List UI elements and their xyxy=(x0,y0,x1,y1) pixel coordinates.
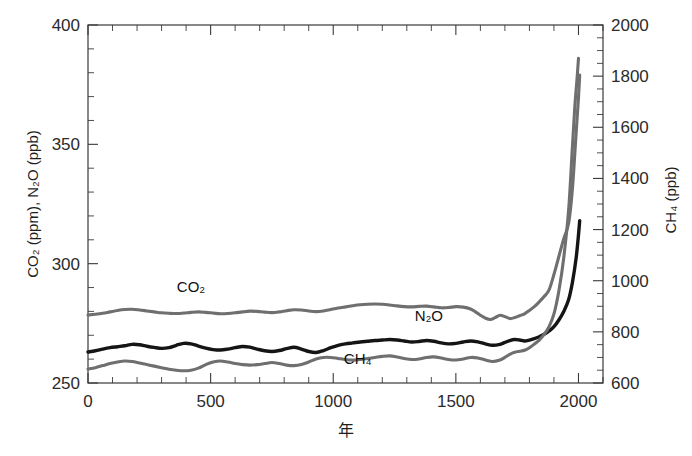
left-tick-label: 300 xyxy=(52,255,80,274)
bottom-axis-ticks xyxy=(88,373,603,383)
series-label-no: N₂O xyxy=(415,307,443,324)
right-tick-label: 1000 xyxy=(611,272,649,291)
right-tick-label: 2000 xyxy=(611,16,649,35)
right-axis-title: CH₄ (ppb) xyxy=(662,167,679,234)
series-annotation-layer: CO₂N₂OCH₄ xyxy=(177,278,443,367)
bottom-tick-label: 1500 xyxy=(437,392,475,411)
bottom-tick-label: 500 xyxy=(196,392,224,411)
series-curve-ch xyxy=(88,58,578,370)
right-tick-label: 600 xyxy=(611,374,639,393)
data-series-layer xyxy=(88,58,580,370)
left-axis-tick-labels: 250300350400 xyxy=(52,16,80,393)
right-tick-label: 800 xyxy=(611,323,639,342)
greenhouse-gas-concentration-chart: 250300350400 600800100012001400160018002… xyxy=(0,0,692,456)
left-axis-title: CO₂ (ppm), N₂O (ppb) xyxy=(24,130,41,278)
left-tick-label: 350 xyxy=(52,135,80,154)
plot-frame xyxy=(88,25,603,383)
right-tick-label: 1600 xyxy=(611,118,649,137)
bottom-tick-label: 1000 xyxy=(314,392,352,411)
figure-container: 250300350400 600800100012001400160018002… xyxy=(0,0,692,456)
right-tick-label: 1400 xyxy=(611,169,649,188)
series-label-ch: CH₄ xyxy=(344,350,372,367)
right-axis-tick-labels: 600800100012001400160018002000 xyxy=(611,16,649,393)
right-axis-ticks xyxy=(593,25,603,383)
left-tick-label: 400 xyxy=(52,16,80,35)
series-curve-no xyxy=(88,221,580,353)
left-tick-label: 250 xyxy=(52,374,80,393)
series-curve-co xyxy=(88,75,580,319)
left-axis-ticks xyxy=(88,25,98,383)
right-tick-label: 1800 xyxy=(611,67,649,86)
bottom-tick-label: 2000 xyxy=(560,392,598,411)
top-axis-ticks xyxy=(88,25,603,35)
bottom-axis-tick-labels: 0500100015002000 xyxy=(83,392,597,411)
bottom-tick-label: 0 xyxy=(83,392,92,411)
series-label-co: CO₂ xyxy=(177,278,206,295)
bottom-axis-title: 年 xyxy=(338,421,354,440)
right-tick-label: 1200 xyxy=(611,221,649,240)
